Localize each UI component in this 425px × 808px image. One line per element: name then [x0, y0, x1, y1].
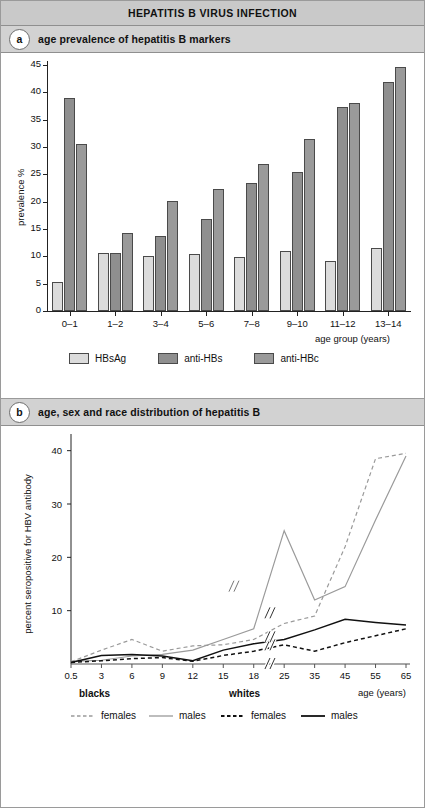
- legend-item: anti-HBs: [158, 353, 222, 364]
- y-tick: [43, 229, 47, 230]
- line-plot-svg: 102030400.53691215182535455565percent se…: [1, 426, 425, 756]
- axis-break-mark: [265, 607, 275, 618]
- panel-b-badge: b: [9, 402, 30, 423]
- y-tick: [43, 174, 47, 175]
- bar: [213, 189, 224, 311]
- y-tick-label: 30: [15, 140, 41, 151]
- legend-label: anti-HBs: [184, 353, 222, 364]
- x-tick-label: 55: [370, 670, 381, 681]
- bar: [280, 251, 291, 311]
- x-tick: [343, 312, 344, 316]
- y-tick: [43, 311, 47, 312]
- x-tick-label: 15: [218, 670, 229, 681]
- series-line: [71, 453, 406, 662]
- x-tick: [206, 312, 207, 316]
- y-tick: [43, 65, 47, 66]
- y-tick-label: 40: [15, 85, 41, 96]
- y-tick: [43, 120, 47, 121]
- bar: [258, 164, 269, 311]
- bar: [395, 67, 406, 311]
- x-tick-label: 25: [279, 670, 290, 681]
- x-tick-label: 5–6: [182, 318, 230, 329]
- x-tick: [388, 312, 389, 316]
- series-line: [71, 456, 406, 661]
- bar: [234, 257, 245, 311]
- y-tick: [43, 256, 47, 257]
- y-tick-label: 20: [51, 552, 62, 563]
- y-tick-label: 45: [15, 58, 41, 69]
- x-tick-label: 3–4: [137, 318, 185, 329]
- panel-b-header: b age, sex and race distribution of hepa…: [1, 399, 424, 426]
- y-tick-label: 5: [15, 277, 41, 288]
- bar: [155, 236, 166, 311]
- bar: [110, 253, 121, 311]
- x-tick: [115, 312, 116, 316]
- x-tick-label: 7–8: [228, 318, 276, 329]
- x-tick-label: 65: [401, 670, 412, 681]
- x-tick-label: 6: [129, 670, 134, 681]
- y-tick-label: 30: [51, 499, 62, 510]
- x-tick: [297, 312, 298, 316]
- bar: [292, 172, 303, 311]
- bar-chart-legend: HBsAganti-HBsanti-HBc: [69, 353, 345, 364]
- x-tick: [70, 312, 71, 316]
- x-axis-line: [47, 311, 411, 312]
- panel-a-body: 051015202530354045prevalence %0–11–23–45…: [1, 53, 424, 399]
- x-tick-label: 0.5: [64, 670, 77, 681]
- y-tick-label: 10: [15, 249, 41, 260]
- legend-swatch: [69, 353, 89, 364]
- bar: [304, 139, 315, 311]
- bar: [349, 103, 360, 311]
- bar: [325, 261, 336, 311]
- figure-container: HEPATITIS B VIRUS INFECTION a age preval…: [0, 0, 425, 808]
- legend-item: HBsAg: [69, 353, 126, 364]
- bar: [337, 107, 348, 311]
- bar: [122, 233, 133, 311]
- bar: [246, 183, 257, 311]
- y-tick: [43, 202, 47, 203]
- bar: [189, 254, 200, 311]
- bar: [98, 253, 109, 311]
- x-tick-label: 9: [160, 670, 165, 681]
- x-tick-label: 9–10: [273, 318, 321, 329]
- line-chart: 102030400.53691215182535455565percent se…: [1, 426, 424, 756]
- y-tick-label: 0: [15, 304, 41, 315]
- figure-title: HEPATITIS B VIRUS INFECTION: [128, 7, 297, 19]
- bar: [64, 98, 75, 311]
- bar: [201, 219, 212, 311]
- x-tick-label: 45: [340, 670, 351, 681]
- y-tick: [43, 92, 47, 93]
- bar: [383, 82, 394, 311]
- panel-b-heading: age, sex and race distribution of hepati…: [38, 406, 260, 418]
- legend-label: anti-HBc: [280, 353, 318, 364]
- panel-a-header: a age prevalence of hepatitis B markers: [1, 26, 424, 53]
- legend-swatch: [158, 353, 178, 364]
- x-tick-label: 13–14: [364, 318, 412, 329]
- panel-a-heading: age prevalence of hepatitis B markers: [38, 33, 231, 45]
- y-tick: [43, 284, 47, 285]
- bar: [76, 144, 87, 311]
- bar: [52, 282, 63, 311]
- legend-item: anti-HBc: [254, 353, 318, 364]
- x-tick-label: 3: [99, 670, 104, 681]
- panel-a-badge: a: [9, 29, 30, 50]
- x-tick-label: 12: [188, 670, 199, 681]
- x-tick: [161, 312, 162, 316]
- x-tick-label: 18: [248, 670, 259, 681]
- legend-swatch: [254, 353, 274, 364]
- legend-label: HBsAg: [95, 353, 126, 364]
- x-axis-title: age group (years): [315, 333, 390, 344]
- bar: [371, 248, 382, 311]
- y-axis-line: [47, 61, 48, 311]
- y-tick: [43, 147, 47, 148]
- y-tick-label: 40: [51, 445, 62, 456]
- y-tick-label: 10: [51, 605, 62, 616]
- x-tick-label: 11–12: [319, 318, 367, 329]
- y-axis-title: prevalence %: [15, 168, 26, 226]
- y-axis-title: percent seropositive for HBV antibody: [22, 474, 33, 634]
- x-tick-label: 35: [309, 670, 320, 681]
- bar: [143, 256, 154, 311]
- axis-break-mark-series: [229, 581, 239, 592]
- x-tick: [252, 312, 253, 316]
- x-tick-label: 1–2: [91, 318, 139, 329]
